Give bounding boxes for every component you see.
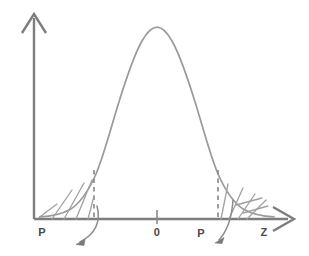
axes-group — [22, 14, 294, 231]
right-tail-hatching — [221, 184, 268, 219]
normal-curve-path — [40, 27, 274, 217]
z-axis-label: Z — [261, 226, 268, 238]
right-tail-probability-label: P — [197, 227, 205, 239]
left-callout-arrowhead-icon — [76, 240, 85, 246]
left-tail-hatching — [39, 180, 94, 219]
left-tail-probability-label: P — [38, 226, 46, 238]
callout-arrows-group — [76, 200, 233, 246]
normal-distribution-figure: P 0 P Z — [0, 0, 309, 256]
bell-curve-group — [40, 27, 274, 217]
left-callout-arrow — [80, 206, 98, 242]
distribution-diagram-canvas: P 0 P Z — [0, 0, 309, 256]
center-zero-label: 0 — [154, 226, 160, 238]
right-tail-region — [218, 170, 268, 219]
